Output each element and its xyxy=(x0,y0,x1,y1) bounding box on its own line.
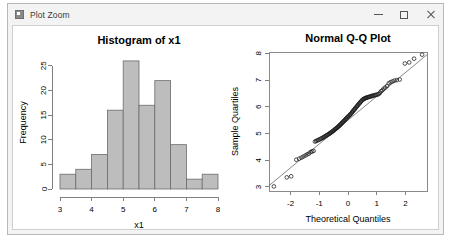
histogram-bar xyxy=(171,145,187,189)
maximize-icon xyxy=(400,11,408,19)
plot-window-icon xyxy=(15,10,24,19)
x-tick-label: 7 xyxy=(184,205,189,214)
x-tick-label: 6 xyxy=(153,205,158,214)
qq-title: Normal Q-Q Plot xyxy=(305,32,391,44)
close-button[interactable] xyxy=(417,4,443,25)
x-tick-label: 5 xyxy=(121,205,126,214)
histogram-xlabel: x1 xyxy=(134,220,144,230)
qq-y-tick-label: 4 xyxy=(255,157,264,162)
qq-y-tick-label: 5 xyxy=(255,131,264,136)
qq-reference-line xyxy=(269,55,427,186)
qq-x-tick-label: -2 xyxy=(287,199,295,208)
qqplot-panel: Normal Q-Q Plot345678-2-1012Theoretical … xyxy=(227,26,441,229)
histogram-bar xyxy=(155,81,171,189)
qq-x-tick-label: 2 xyxy=(403,199,408,208)
close-icon xyxy=(426,10,435,19)
histogram-x-axis: 345678 xyxy=(58,197,221,214)
histogram-chart: Histogram of x10510152025345678x1Frequen… xyxy=(13,26,227,230)
x-tick-label: 8 xyxy=(216,205,221,214)
window-titlebar[interactable]: Plot Zoom xyxy=(8,4,443,25)
qq-point xyxy=(420,53,424,57)
plots-container: Histogram of x10510152025345678x1Frequen… xyxy=(13,26,438,229)
qq-point xyxy=(407,61,411,65)
y-tick-label: 0 xyxy=(40,186,49,191)
histogram-bar xyxy=(186,179,202,189)
histogram-bar xyxy=(60,174,76,189)
y-tick-label: 15 xyxy=(40,110,49,119)
qq-x-tick-label: -1 xyxy=(316,199,324,208)
qq-ylabel: Sample Quartiles xyxy=(230,86,240,156)
histogram-bar xyxy=(76,169,92,189)
plot-zoom-window: Plot Zoom Histogram of x1051015202534567… xyxy=(7,3,444,235)
qq-y-axis: 345678 xyxy=(255,51,270,190)
window-title: Plot Zoom xyxy=(30,10,70,20)
maximize-button[interactable] xyxy=(391,4,417,25)
histogram-y-axis: 0510152025 xyxy=(40,61,53,191)
histogram-bar xyxy=(123,61,139,189)
y-tick-label: 5 xyxy=(40,162,49,167)
qq-x-axis: -2-1012 xyxy=(287,191,408,208)
histogram-bar xyxy=(202,174,218,189)
histogram-bar xyxy=(92,155,108,189)
qq-xlabel: Theoretical Quantiles xyxy=(305,214,391,224)
qq-x-tick-label: 1 xyxy=(375,199,380,208)
histogram-bar xyxy=(139,105,155,189)
qq-y-tick-label: 6 xyxy=(255,104,264,109)
minimize-button[interactable] xyxy=(365,4,391,25)
qq-y-tick-label: 8 xyxy=(255,51,264,56)
x-tick-label: 3 xyxy=(58,205,63,214)
histogram-ylabel: Frequency xyxy=(18,101,28,144)
histogram-bars xyxy=(60,61,218,189)
qq-point xyxy=(403,62,407,66)
y-tick-label: 20 xyxy=(40,85,49,94)
qq-point xyxy=(285,176,289,180)
qq-point xyxy=(412,57,416,61)
y-tick-label: 25 xyxy=(40,61,49,70)
minimize-icon xyxy=(374,14,383,15)
plot-content-area: Histogram of x10510152025345678x1Frequen… xyxy=(12,25,439,230)
histogram-bar xyxy=(107,110,123,189)
y-tick-label: 10 xyxy=(40,135,49,144)
qq-x-tick-label: 0 xyxy=(346,199,351,208)
window-controls xyxy=(365,4,443,25)
qq-point xyxy=(289,174,293,178)
x-tick-label: 4 xyxy=(89,205,94,214)
histogram-panel: Histogram of x10510152025345678x1Frequen… xyxy=(13,26,227,229)
qq-point xyxy=(272,185,276,189)
histogram-title: Histogram of x1 xyxy=(97,34,180,46)
qq-plot-frame xyxy=(269,52,427,191)
qq-chart: Normal Q-Q Plot345678-2-1012Theoretical … xyxy=(227,26,441,230)
qq-y-tick-label: 7 xyxy=(255,77,264,82)
qq-y-tick-label: 3 xyxy=(255,184,264,189)
